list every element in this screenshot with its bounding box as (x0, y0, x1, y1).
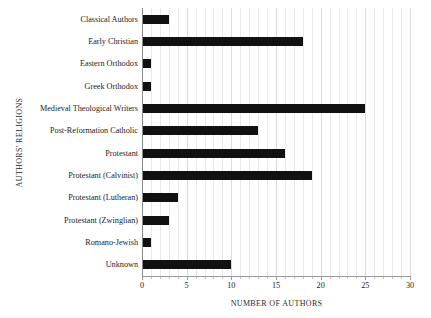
gridline-minor (401, 8, 402, 276)
tick-minor (267, 277, 268, 279)
bar (142, 37, 303, 46)
bar (142, 238, 151, 247)
tick-minor (339, 277, 340, 279)
x-axis-title: NUMBER OF AUTHORS (142, 299, 411, 308)
gridline-major (410, 8, 411, 276)
bar (142, 104, 365, 113)
bar (142, 260, 231, 269)
category-label: Protestant (Lutheran) (14, 193, 138, 202)
category-label: Eastern Orthodox (14, 59, 138, 68)
tick-major (142, 277, 143, 280)
category-label: Post-Reformation Catholic (14, 126, 138, 135)
gridline-minor (392, 8, 393, 276)
tick-major (187, 277, 188, 280)
gridline-minor (249, 8, 250, 276)
tick-minor (347, 277, 348, 279)
tick-minor (258, 277, 259, 279)
gridline-major (321, 8, 322, 276)
category-label-list: Classical AuthorsEarly ChristianEastern … (16, 8, 140, 276)
gridline-minor (178, 8, 179, 276)
tick-minor (401, 277, 402, 279)
gridline-major (231, 8, 232, 276)
gridline-minor (356, 8, 357, 276)
tick-minor (160, 277, 161, 279)
y-axis-line (142, 8, 143, 277)
x-tick-label: 10 (227, 281, 235, 290)
tick-major (410, 277, 411, 280)
gridline-minor (330, 8, 331, 276)
tick-minor (240, 277, 241, 279)
x-tick-label: 20 (317, 281, 325, 290)
bar (142, 59, 151, 68)
gridline-minor (374, 8, 375, 276)
gridline-minor (285, 8, 286, 276)
gridline-minor (240, 8, 241, 276)
x-tick-label: 5 (185, 281, 189, 290)
tick-minor (330, 277, 331, 279)
plot-area (142, 8, 410, 276)
gridline-minor (294, 8, 295, 276)
category-label: Protestant (14, 149, 138, 158)
x-tick-label: 25 (361, 281, 369, 290)
category-label: Classical Authors (14, 15, 138, 24)
gridlines (142, 8, 410, 276)
category-label: Early Christian (14, 37, 138, 46)
tick-minor (222, 277, 223, 279)
gridline-minor (347, 8, 348, 276)
gridline-minor (169, 8, 170, 276)
tick-minor (392, 277, 393, 279)
bar-chart: AUTHORS' RELIGIONS Classical AuthorsEarl… (0, 0, 431, 318)
category-label: Greek Orthodox (14, 82, 138, 91)
tick-major (231, 277, 232, 280)
bar (142, 15, 169, 24)
tick-minor (383, 277, 384, 279)
bar (142, 149, 285, 158)
gridline-minor (160, 8, 161, 276)
x-tick-label: 15 (272, 281, 280, 290)
gridline-minor (339, 8, 340, 276)
x-tick-label: 30 (406, 281, 414, 290)
tick-minor (249, 277, 250, 279)
gridline-minor (205, 8, 206, 276)
gridline-major (276, 8, 277, 276)
gridline-major (365, 8, 366, 276)
gridline-minor (267, 8, 268, 276)
gridline-minor (151, 8, 152, 276)
gridline-minor (258, 8, 259, 276)
gridline-major (187, 8, 188, 276)
category-label: Unknown (14, 260, 138, 269)
bar (142, 193, 178, 202)
category-label: Romano-Jewish (14, 238, 138, 247)
bar (142, 171, 312, 180)
tick-major (321, 277, 322, 280)
category-label: Protestant (Calvinist) (14, 171, 138, 180)
tick-minor (196, 277, 197, 279)
gridline-minor (213, 8, 214, 276)
tick-minor (312, 277, 313, 279)
tick-minor (303, 277, 304, 279)
tick-minor (213, 277, 214, 279)
tick-minor (178, 277, 179, 279)
x-axis-tick-labels: 051015202530 (142, 281, 411, 293)
bar (142, 126, 258, 135)
gridline-minor (383, 8, 384, 276)
x-tick-label: 0 (140, 281, 144, 290)
bar (142, 216, 169, 225)
tick-minor (205, 277, 206, 279)
tick-minor (169, 277, 170, 279)
tick-minor (285, 277, 286, 279)
tick-major (276, 277, 277, 280)
gridline-minor (196, 8, 197, 276)
tick-major (365, 277, 366, 280)
tick-minor (294, 277, 295, 279)
gridline-minor (222, 8, 223, 276)
tick-minor (374, 277, 375, 279)
category-label: Medieval Theological Writers (14, 104, 138, 113)
gridline-minor (303, 8, 304, 276)
category-label: Protestant (Zwinglian) (14, 216, 138, 225)
tick-minor (356, 277, 357, 279)
bar (142, 82, 151, 91)
tick-minor (151, 277, 152, 279)
gridline-minor (312, 8, 313, 276)
